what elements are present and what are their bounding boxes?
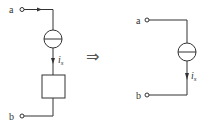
terminal-a bbox=[20, 8, 24, 12]
left-circuit: a is b bbox=[9, 4, 65, 122]
terminal-a-label: a bbox=[136, 15, 141, 26]
arbitrary-element-box bbox=[42, 75, 65, 98]
terminal-b bbox=[20, 114, 24, 118]
wire-bottom bbox=[24, 98, 53, 116]
terminal-b-label: b bbox=[136, 90, 141, 101]
wire-bottom bbox=[149, 61, 187, 95]
equivalence-diagram: a is b ⇒ a is b bbox=[0, 0, 211, 126]
terminal-a bbox=[145, 18, 149, 22]
wire-top bbox=[149, 20, 187, 43]
terminal-a-label: a bbox=[9, 4, 14, 15]
current-label: is bbox=[58, 54, 64, 67]
right-circuit: a is b bbox=[136, 15, 197, 101]
wire-top bbox=[24, 10, 53, 31]
current-arrow-icon bbox=[185, 73, 189, 80]
terminal-b bbox=[145, 93, 149, 97]
current-label: is bbox=[191, 70, 197, 83]
terminal-b-label: b bbox=[9, 111, 14, 122]
current-arrow-top bbox=[37, 8, 42, 12]
equivalence-arrow-icon: ⇒ bbox=[86, 47, 99, 66]
current-arrow-icon bbox=[51, 58, 55, 64]
